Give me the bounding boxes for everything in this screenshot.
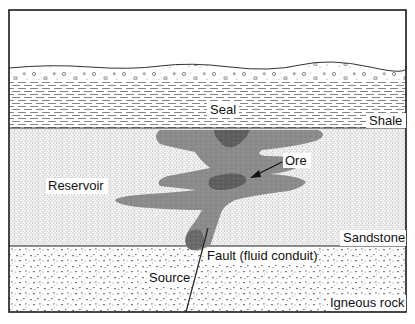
- label-shale: Shale: [366, 113, 406, 128]
- layer-topsoil: [9, 62, 406, 80]
- svg-text:Igneous rock: Igneous rock: [330, 295, 405, 310]
- svg-text:Fault (fluid conduit): Fault (fluid conduit): [207, 248, 318, 263]
- label-sandstone: Sandstone: [340, 230, 406, 246]
- label-ore: Ore: [283, 153, 311, 168]
- svg-text:Reservoir: Reservoir: [48, 178, 104, 193]
- svg-text:Ore: Ore: [285, 153, 307, 168]
- label-source: Source: [147, 270, 191, 286]
- label-reservoir: Reservoir: [46, 178, 108, 194]
- svg-text:Sandstone: Sandstone: [343, 230, 405, 245]
- svg-text:Shale: Shale: [369, 113, 402, 128]
- svg-text:Seal: Seal: [210, 102, 236, 117]
- geology-cross-section: Seal Shale Ore Reservoir Sandstone Fault…: [0, 0, 415, 324]
- label-fault: Fault (fluid conduit): [205, 248, 318, 264]
- label-igneous-rock: Igneous rock: [328, 295, 406, 311]
- label-seal: Seal: [207, 101, 239, 117]
- svg-text:Source: Source: [149, 270, 190, 285]
